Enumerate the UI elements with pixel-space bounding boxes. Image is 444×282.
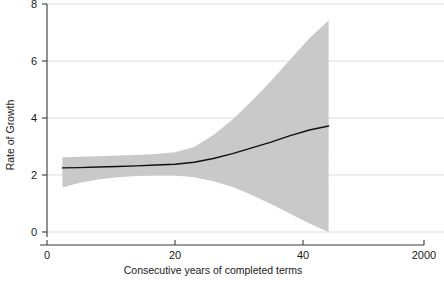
x-tick-label-2000: 2000 <box>412 249 436 261</box>
y-tick-label-2: 2 <box>31 169 37 181</box>
y-tick-label-8: 8 <box>31 0 37 10</box>
x-tick-label-0: 0 <box>44 249 50 261</box>
y-tick-label-6: 6 <box>31 55 37 67</box>
y-tick-label-0: 0 <box>31 226 37 238</box>
chart-figure: 8 6 4 2 0 Rate of Growth 0 20 40 2000 Co… <box>0 0 444 282</box>
x-axis-title: Consecutive years of completed terms <box>124 264 303 276</box>
x-tick-label-20: 20 <box>169 249 181 261</box>
y-axis-title: Rate of Growth <box>4 100 16 171</box>
chart-plot-area: 8 6 4 2 0 Rate of Growth 0 20 40 2000 Co… <box>0 0 444 282</box>
y-tick-label-4: 4 <box>31 112 37 124</box>
x-tick-label-40: 40 <box>297 249 309 261</box>
